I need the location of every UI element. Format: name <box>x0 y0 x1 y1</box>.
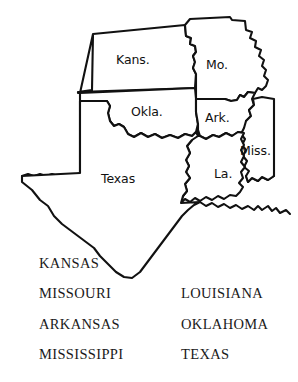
list-row: KANSAS <box>0 255 298 285</box>
map-label-kansas: Kans. <box>116 52 150 67</box>
list-item-missouri: MISSOURI <box>39 285 111 302</box>
map-label-oklahoma: Okla. <box>131 104 163 119</box>
list-row: MISSISSIPPI TEXAS <box>0 346 298 376</box>
state-name-list: KANSAS MISSOURI LOUISIANA ARKANSAS OKLAH… <box>0 248 298 382</box>
list-item-mississippi: MISSISSIPPI <box>39 346 123 363</box>
map-label-mississippi: Miss. <box>240 143 271 158</box>
map-label-louisiana: La. <box>214 166 232 181</box>
list-item-oklahoma: OKLAHOMA <box>181 316 268 333</box>
map-label-texas: Texas <box>101 171 135 186</box>
list-item-louisiana: LOUISIANA <box>181 285 263 302</box>
figure-canvas: Kans. Mo. Okla. Ark. Miss. Texas La. KAN… <box>0 0 298 382</box>
map-label-missouri: Mo. <box>206 57 228 72</box>
list-item-texas: TEXAS <box>181 346 229 363</box>
list-row: MISSOURI LOUISIANA <box>0 285 298 315</box>
list-row: ARKANSAS OKLAHOMA <box>0 316 298 346</box>
map-label-arkansas: Ark. <box>205 110 230 125</box>
gulf-coast-mississippi <box>246 176 274 182</box>
list-item-kansas: KANSAS <box>39 255 99 272</box>
list-item-arkansas: ARKANSAS <box>39 316 120 333</box>
gulf-coast-louisiana <box>200 202 290 214</box>
